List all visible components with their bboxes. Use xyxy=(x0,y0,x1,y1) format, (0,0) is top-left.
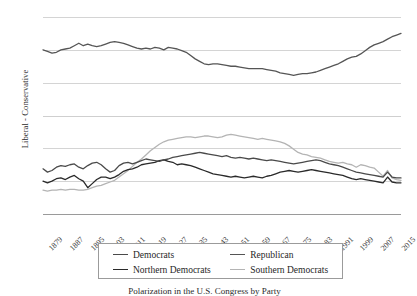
gridline xyxy=(43,214,401,215)
figure-caption: Polarization in the U.S. Congress by Par… xyxy=(0,286,409,296)
y-axis-label: Liberal - Conservative xyxy=(20,29,30,189)
plot-area: 0.60.40.20-0.2-0.4-0.6 18791887189519031… xyxy=(43,17,401,214)
x-tick-label: 2007 xyxy=(379,235,397,253)
legend-item-republican: Republican xyxy=(226,250,336,260)
x-tick-label: 1887 xyxy=(67,235,85,253)
series-line xyxy=(43,33,401,75)
legend-swatch-republican xyxy=(230,254,245,255)
legend-label-republican: Republican xyxy=(250,250,293,260)
series-lines xyxy=(43,17,401,214)
legend-item-democrats: Democrats xyxy=(105,250,226,260)
legend-swatch-democrats xyxy=(113,254,128,255)
x-tick-label: 1999 xyxy=(358,235,376,253)
legend-row: Democrats Republican xyxy=(105,247,336,262)
x-tick-label: 1879 xyxy=(47,235,65,253)
x-tick-label: 2015 xyxy=(399,235,417,253)
legend-swatch-southern-democrats xyxy=(230,269,245,270)
legend-item-southern-democrats: Southern Democrats xyxy=(226,265,336,275)
legend-label-northern-democrats: Northern Democrats xyxy=(133,265,211,275)
chart-legend: Democrats Republican Northern Democrats … xyxy=(98,243,343,279)
legend-swatch-northern-democrats xyxy=(113,269,128,270)
legend-label-southern-democrats: Southern Democrats xyxy=(250,265,328,275)
legend-label-democrats: Democrats xyxy=(133,250,174,260)
legend-item-northern-democrats: Northern Democrats xyxy=(105,265,226,275)
legend-row: Northern Democrats Southern Democrats xyxy=(105,262,336,277)
series-line xyxy=(43,152,401,177)
